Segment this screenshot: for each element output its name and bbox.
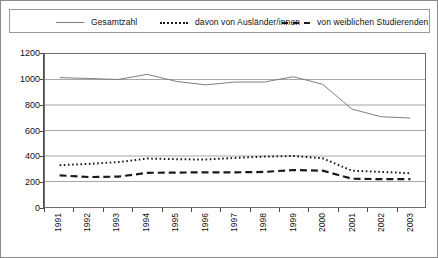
x-tick-mark: [44, 208, 45, 212]
x-tick-mark: [279, 208, 280, 212]
x-tick-mark: [367, 208, 368, 212]
x-tick-label: 1991: [54, 213, 63, 232]
y-tick-label: 400: [4, 152, 40, 161]
x-tick-mark: [73, 208, 74, 212]
x-tick-label: 1993: [112, 213, 121, 232]
series-line-1: [60, 156, 411, 173]
x-tick-label: 1994: [142, 213, 151, 232]
y-tick-mark: [40, 53, 44, 54]
chart-figure: Gesamtzahl davon von Ausländer/innen von…: [0, 0, 438, 258]
x-tick-mark: [250, 208, 251, 212]
y-tick-mark: [40, 131, 44, 132]
x-axis: 1991199219931994199519961997199819992000…: [44, 210, 426, 258]
y-tick-label: 0: [4, 204, 40, 213]
chart-legend: Gesamtzahl davon von Ausländer/innen von…: [9, 9, 430, 33]
x-tick-mark: [191, 208, 192, 212]
y-tick-label: 1200: [4, 49, 40, 58]
x-tick-label: 2002: [377, 213, 386, 232]
y-tick-label: 200: [4, 178, 40, 187]
x-tick-mark: [103, 208, 104, 212]
y-tick-label: 800: [4, 100, 40, 109]
x-tick-mark: [132, 208, 133, 212]
x-tick-label: 1995: [171, 213, 180, 232]
x-tick-mark: [338, 208, 339, 212]
x-tick-label: 1999: [289, 213, 298, 232]
x-tick-mark: [397, 208, 398, 212]
x-tick-label: 1997: [230, 213, 239, 232]
y-tick-mark: [40, 79, 44, 80]
plot-area: [44, 53, 426, 208]
legend-item-weibliche: von weiblichen Studierenden: [282, 10, 428, 34]
legend-swatch-dotted-line-icon: [160, 17, 188, 27]
x-tick-label: 2001: [348, 213, 357, 232]
x-tick-mark: [220, 208, 221, 212]
x-tick-label: 1992: [83, 213, 92, 232]
y-tick-mark: [40, 156, 44, 157]
x-tick-label: 2000: [318, 213, 327, 232]
y-tick-label: 600: [4, 126, 40, 135]
legend-label-gesamtzahl: Gesamtzahl: [91, 17, 137, 27]
y-tick-mark: [40, 105, 44, 106]
legend-item-auslaender: davon von Ausländer/innen: [160, 10, 300, 34]
y-axis: 020040060080010001200: [1, 53, 40, 208]
x-tick-label: 2003: [406, 213, 415, 232]
legend-label-weibliche: von weiblichen Studierenden: [317, 17, 428, 27]
x-tick-mark: [162, 208, 163, 212]
x-tick-label: 1996: [201, 213, 210, 232]
x-tick-mark: [308, 208, 309, 212]
legend-item-gesamtzahl: Gesamtzahl: [56, 10, 137, 34]
y-tick-mark: [40, 182, 44, 183]
series-line-0: [60, 74, 411, 118]
y-tick-label: 1000: [4, 74, 40, 83]
legend-swatch-solid-line-icon: [56, 17, 84, 27]
plot-svg: [45, 54, 425, 207]
legend-swatch-dashed-line-icon: [282, 17, 310, 27]
x-tick-label: 1998: [259, 213, 268, 232]
